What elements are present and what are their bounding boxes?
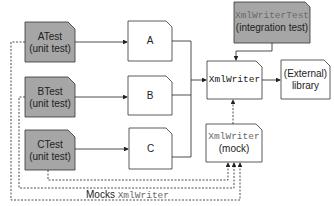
a-label: A [128,35,172,47]
ctest-label: CTest (unit test) [25,139,75,163]
b-label: B [128,90,172,102]
btest-name: BTest [25,86,75,98]
integration-name: XmlWriterTest [234,10,310,22]
atest-sub: (unit test) [25,43,75,55]
caption-prefix: Mocks [86,189,118,200]
external-line2: library [281,80,330,92]
mocks-caption: Mocks XmlWriter [86,189,176,202]
integration-sub: (integration test) [234,22,310,34]
btest-sub: (unit test) [25,98,75,110]
mock-name: XmlWriter [206,131,262,143]
atest-label: ATest (unit test) [25,31,75,55]
ctest-sub: (unit test) [25,151,75,163]
c-label: C [129,143,172,155]
btest-label: BTest (unit test) [25,86,75,110]
ctest-name: CTest [25,139,75,151]
external-line1: (External) [281,68,330,80]
mock-label: XmlWriter (mock) [206,131,262,155]
mock-sub: (mock) [206,143,262,155]
external-library-label: (External) library [281,68,330,92]
integration-test-label: XmlWriterTest (integration test) [234,10,310,34]
xmlwriter-label: XmlWriter [207,74,262,86]
atest-name: ATest [25,31,75,43]
caption-code: XmlWriter [118,190,169,201]
